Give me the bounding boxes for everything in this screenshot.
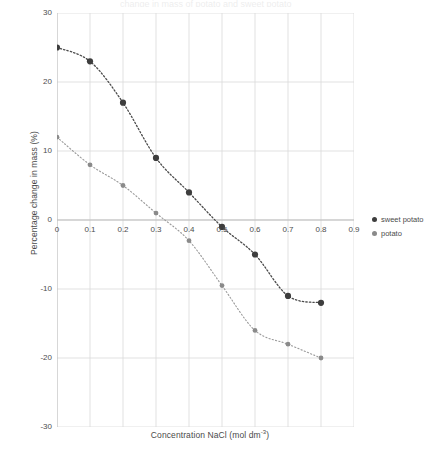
x-axis-title-close: ) bbox=[266, 430, 269, 440]
legend-item-sweet-potato[interactable]: sweet potato bbox=[372, 212, 424, 226]
legend-label: potato bbox=[381, 229, 402, 238]
y-tick-label: -10 bbox=[18, 285, 52, 293]
data-points bbox=[57, 44, 324, 360]
y-axis-title: Percentage change in mass (%) bbox=[29, 93, 39, 293]
data-point-sweet-potato bbox=[285, 293, 291, 299]
data-point-sweet-potato bbox=[186, 189, 192, 195]
x-tick-label: 0.5 bbox=[207, 226, 237, 234]
y-tick-label: -30 bbox=[18, 423, 52, 431]
data-point-potato bbox=[220, 283, 225, 288]
data-point-potato bbox=[319, 356, 324, 361]
legend-marker-icon bbox=[372, 217, 377, 222]
x-tick-label: 0 bbox=[42, 226, 72, 234]
y-tick-label: 10 bbox=[18, 147, 52, 155]
axis-lines bbox=[57, 13, 354, 427]
data-point-potato bbox=[253, 328, 258, 333]
data-point-potato bbox=[286, 342, 291, 347]
legend-label: sweet potato bbox=[381, 215, 424, 224]
x-tick-label: 0.7 bbox=[273, 226, 303, 234]
legend-marker-icon bbox=[372, 231, 377, 236]
data-point-sweet-potato bbox=[57, 44, 60, 50]
y-tick-label: 20 bbox=[18, 78, 52, 86]
plot-svg bbox=[57, 13, 354, 427]
data-point-potato bbox=[88, 162, 93, 167]
data-point-sweet-potato bbox=[318, 300, 324, 306]
x-tick-label: 0.4 bbox=[174, 226, 204, 234]
x-tick-label: 0.9 bbox=[339, 226, 369, 234]
x-tick-label: 0.3 bbox=[141, 226, 171, 234]
data-point-potato bbox=[187, 238, 192, 243]
x-tick-label: 0.6 bbox=[240, 226, 270, 234]
data-point-sweet-potato bbox=[87, 58, 93, 64]
x-tick-label: 0.2 bbox=[108, 226, 138, 234]
y-tick-label: 30 bbox=[18, 9, 52, 17]
x-axis-title: Concentration NaCl (mol dm-3) bbox=[60, 429, 360, 440]
data-point-sweet-potato bbox=[153, 155, 159, 161]
x-axis-title-text: Concentration NaCl (mol dm bbox=[151, 430, 261, 440]
data-point-potato bbox=[57, 135, 59, 140]
x-tick-label: 0.1 bbox=[75, 226, 105, 234]
data-point-sweet-potato bbox=[252, 251, 258, 257]
data-point-potato bbox=[121, 183, 126, 188]
data-point-potato bbox=[154, 211, 159, 216]
chart-title-remnant: change in mass of potato and sweet potat… bbox=[120, 0, 330, 7]
y-tick-label: 0 bbox=[18, 216, 52, 224]
chart-container: change in mass of potato and sweet potat… bbox=[0, 0, 446, 456]
data-point-sweet-potato bbox=[120, 100, 126, 106]
chart-legend: sweet potatopotato bbox=[372, 212, 424, 240]
x-tick-label: 0.8 bbox=[306, 226, 336, 234]
legend-item-potato[interactable]: potato bbox=[372, 226, 424, 240]
y-tick-label: -20 bbox=[18, 354, 52, 362]
plot-area bbox=[57, 13, 354, 427]
